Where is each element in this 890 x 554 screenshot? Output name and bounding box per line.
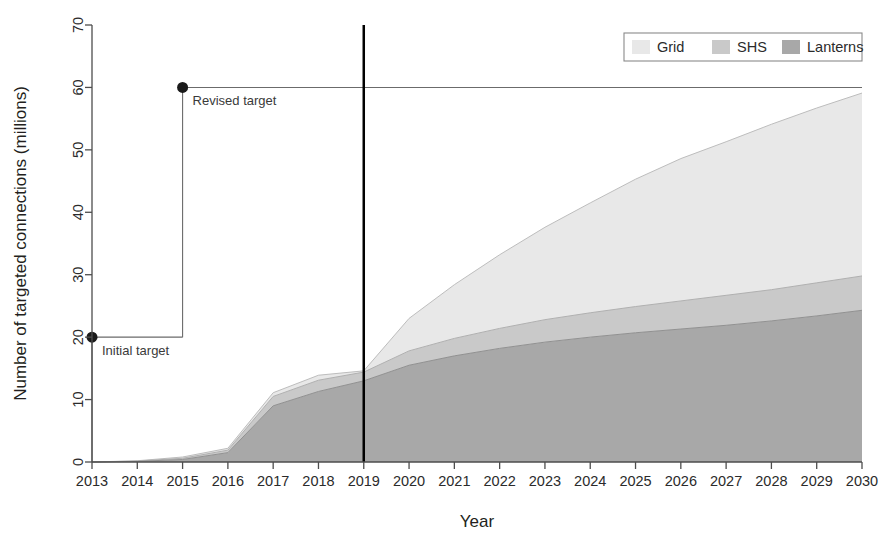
x-axis-tick-label: 2021 [438,473,470,489]
stacked-area-chart: Initial target Revised target 0102030405… [0,0,890,554]
revised-target-marker [177,82,188,93]
legend-swatch-shs [712,40,730,54]
x-axis-tick-label: 2018 [302,473,334,489]
x-axis-tick-label: 2022 [484,473,516,489]
initial-target-label: Initial target [102,343,170,358]
chart-figure: Initial target Revised target 0102030405… [0,0,890,554]
x-axis-tick-label: 2027 [710,473,742,489]
y-axis-tick-label: 70 [70,17,86,33]
y-axis-tick-label: 50 [70,142,86,158]
y-axis-tick-label: 10 [70,392,86,408]
x-axis-tick-label: 2017 [257,473,289,489]
x-axis-tick-label: 2030 [846,473,878,489]
x-axis-tick-label: 2020 [393,473,425,489]
y-axis-tick-label: 0 [70,458,86,466]
y-axis-title: Number of targeted connections (millions… [11,86,30,401]
x-axis-tick-label: 2015 [166,473,198,489]
x-axis-tick-label: 2026 [665,473,697,489]
legend-swatch-lanterns [782,40,800,54]
x-axis-tick-label: 2023 [529,473,561,489]
x-axis-title: Year [460,512,495,531]
y-axis-tick-label: 40 [70,204,86,220]
legend-swatch-grid [632,40,650,54]
x-axis-tick-label: 2014 [121,473,153,489]
legend-label-grid: Grid [657,39,684,55]
x-axis-tick-label: 2013 [76,473,108,489]
legend-label-lanterns: Lanterns [807,39,863,55]
y-axis-tick-label: 60 [70,79,86,95]
x-axis-tick-label: 2029 [801,473,833,489]
revised-target-label: Revised target [193,93,277,108]
x-axis-tick-label: 2019 [348,473,380,489]
y-axis-tick-label: 30 [70,267,86,283]
x-axis-tick-label: 2025 [619,473,651,489]
x-axis-tick-label: 2028 [755,473,787,489]
y-axis-tick-label: 20 [70,329,86,345]
x-axis-tick-label: 2016 [212,473,244,489]
x-axis-tick-label: 2024 [574,473,606,489]
legend-label-shs: SHS [737,39,767,55]
